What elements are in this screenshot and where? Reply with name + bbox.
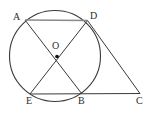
vertex-label-C: C <box>136 96 143 106</box>
segment-chord-AB <box>25 20 82 94</box>
segment-line-EC <box>30 94 140 95</box>
segment-chord-DE <box>30 21 88 95</box>
vertex-label-D: D <box>90 11 97 21</box>
vertex-label-A: A <box>13 12 20 22</box>
center-point-dot <box>55 55 59 59</box>
geometry-figure: A D O E B C <box>0 0 155 113</box>
main-circle <box>10 11 101 102</box>
vertex-label-E: E <box>26 96 32 106</box>
segment-line-DC <box>88 21 141 94</box>
vertex-label-B: B <box>78 96 85 106</box>
segment-chord-AD <box>25 20 88 21</box>
vertex-label-O: O <box>52 41 59 51</box>
